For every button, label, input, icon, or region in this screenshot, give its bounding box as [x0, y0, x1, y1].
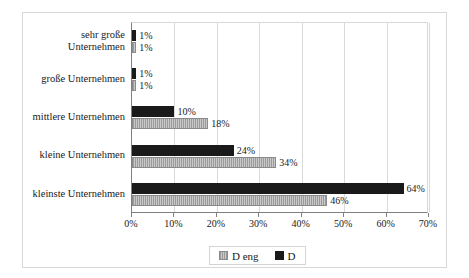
- bar-d: [132, 30, 136, 41]
- gridline-70: [429, 23, 430, 212]
- x-tick-30: [258, 213, 259, 217]
- category-label: mittlere Unternehmen: [23, 111, 125, 124]
- x-tick-50: [343, 213, 344, 217]
- category-label: kleinste Unternehmen: [23, 188, 125, 201]
- x-tick-label: 60%: [376, 218, 394, 229]
- bar-value-label-deng: 1%: [139, 42, 152, 53]
- bar-value-label-d: 64%: [407, 183, 425, 194]
- bar-group: 64%46%: [132, 176, 427, 214]
- legend-label: D eng: [232, 250, 259, 262]
- bar-d: [132, 145, 234, 156]
- category-label: kleine Unternehmen: [23, 149, 125, 162]
- category-label: sehr großeUnternehmen: [23, 29, 125, 54]
- bar-value-label-d: 1%: [139, 30, 152, 41]
- legend-label: D: [288, 250, 296, 262]
- legend-entry: D: [275, 250, 296, 262]
- x-tick-70: [428, 213, 429, 217]
- bar-d: [132, 183, 404, 194]
- bar-value-label-d: 1%: [139, 68, 152, 79]
- bar-group: 1%1%: [132, 23, 427, 61]
- plot-area: 1%1%1%1%10%18%24%34%64%46%: [131, 22, 428, 213]
- legend-swatch-icon: [219, 251, 228, 260]
- bar-group: 24%34%: [132, 138, 427, 176]
- bar-value-label-deng: 18%: [211, 118, 229, 129]
- x-tick-label: 0%: [124, 218, 137, 229]
- bar-deng: [132, 195, 327, 206]
- x-tick-label: 20%: [207, 218, 225, 229]
- bar-d: [132, 68, 136, 79]
- bar-value-label-d: 24%: [237, 145, 255, 156]
- x-tick-label: 50%: [334, 218, 352, 229]
- bar-group: 10%18%: [132, 99, 427, 137]
- x-tick-label: 40%: [292, 218, 310, 229]
- x-tick-40: [301, 213, 302, 217]
- legend-swatch-icon: [275, 251, 284, 260]
- x-tick-10: [173, 213, 174, 217]
- bar-value-label-d: 10%: [177, 106, 195, 117]
- chart-frame: sehr großeUnternehmengroße Unternehmenmi…: [22, 12, 447, 268]
- x-axis: 0%10%20%30%40%50%60%70%: [131, 213, 429, 235]
- bar-deng: [132, 42, 136, 53]
- bar-d: [132, 106, 174, 117]
- x-tick-label: 30%: [249, 218, 267, 229]
- bar-deng: [132, 118, 208, 129]
- bar-value-label-deng: 34%: [279, 157, 297, 168]
- bar-group: 1%1%: [132, 61, 427, 99]
- x-tick-label: 70%: [419, 218, 437, 229]
- bar-value-label-deng: 46%: [330, 195, 348, 206]
- bar-deng: [132, 157, 276, 168]
- legend-entry: D eng: [219, 250, 259, 262]
- category-axis-labels: sehr großeUnternehmengroße Unternehmenmi…: [23, 22, 128, 213]
- category-label: große Unternehmen: [23, 73, 125, 86]
- chart-legend: D engD: [209, 246, 306, 265]
- x-tick-0: [131, 213, 132, 217]
- bar-value-label-deng: 1%: [139, 80, 152, 91]
- x-tick-20: [216, 213, 217, 217]
- x-tick-60: [386, 213, 387, 217]
- bar-deng: [132, 80, 136, 91]
- x-tick-label: 10%: [164, 218, 182, 229]
